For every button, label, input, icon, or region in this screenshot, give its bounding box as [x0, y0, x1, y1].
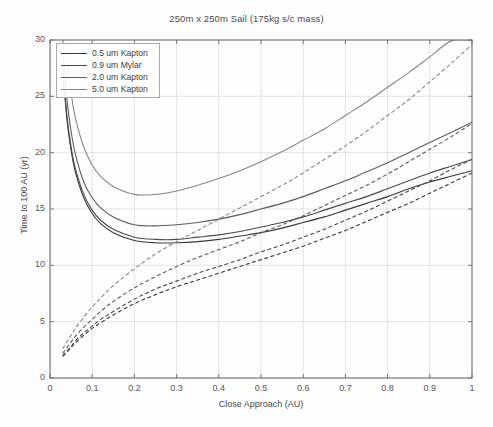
- legend-item-label: 5.0 um Kapton: [92, 84, 148, 94]
- x-tick-label: 0: [30, 383, 70, 393]
- legend-item-label: 2.0 um Kapton: [92, 72, 148, 82]
- legend-item[interactable]: 2.0 um Kapton: [57, 71, 159, 83]
- legend-swatch-line-icon: [61, 53, 87, 54]
- legend-item[interactable]: 0.9 um Mylar: [57, 59, 159, 71]
- legend: 0.5 um Kapton0.9 um Mylar2.0 um Kapton5.…: [56, 43, 160, 98]
- x-tick-label: 0.7: [325, 383, 365, 393]
- y-tick-label: 10: [19, 259, 45, 269]
- y-tick-label: 20: [19, 147, 45, 157]
- legend-swatch-line-icon: [61, 89, 87, 90]
- x-tick-label: 0.4: [199, 383, 239, 393]
- y-tick-label: 0: [19, 372, 45, 382]
- figure-canvas: 250m x 250m Sail (175kg s/c mass) Time t…: [0, 0, 493, 427]
- y-tick-label: 30: [19, 34, 45, 44]
- x-tick-label: 1: [452, 383, 492, 393]
- legend-swatch-line-icon: [61, 77, 87, 78]
- x-tick-label: 0.3: [157, 383, 197, 393]
- x-tick-label: 0.1: [72, 383, 112, 393]
- legend-swatch-line-icon: [61, 65, 87, 66]
- data-series-line: [63, 173, 472, 357]
- legend-item-label: 0.5 um Kapton: [92, 48, 148, 58]
- legend-item[interactable]: 0.5 um Kapton: [57, 47, 159, 59]
- x-tick-label: 0.8: [368, 383, 408, 393]
- y-tick-label: 5: [19, 316, 45, 326]
- y-tick-label: 25: [19, 90, 45, 100]
- x-tick-label: 0.6: [283, 383, 323, 393]
- x-tick-label: 0.9: [410, 383, 450, 393]
- legend-item[interactable]: 5.0 um Kapton: [57, 83, 159, 95]
- x-tick-label: 0.5: [241, 383, 281, 393]
- legend-item-label: 0.9 um Mylar: [92, 60, 142, 70]
- x-tick-label: 0.2: [114, 383, 154, 393]
- data-series-line: [63, 123, 472, 353]
- y-tick-label: 15: [19, 203, 45, 213]
